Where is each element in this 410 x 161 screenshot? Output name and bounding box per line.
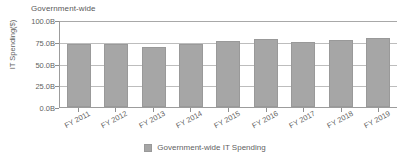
x-tick-label: FY 2016 — [250, 109, 279, 130]
chart-legend: Government-wide IT Spending — [0, 143, 410, 152]
x-tick-slot: FY 2019 — [360, 108, 398, 148]
x-tick-label: FY 2015 — [213, 109, 242, 130]
x-tick-slot: FY 2012 — [97, 108, 135, 148]
y-axis: IT Spending($) 100.0B 75.0B 50.0B 25.0B … — [0, 0, 55, 161]
x-tick-label: FY 2012 — [100, 109, 129, 130]
x-tick-slot: FY 2014 — [172, 108, 210, 148]
x-tick-slot: FY 2018 — [322, 108, 360, 148]
bar-slot — [322, 21, 359, 107]
bar[interactable] — [104, 44, 128, 107]
bar-slot — [172, 21, 209, 107]
bar-slot — [60, 21, 97, 107]
bar[interactable] — [329, 40, 353, 107]
y-axis-title: IT Spending($) — [8, 9, 17, 81]
bar-slot — [360, 21, 397, 107]
x-tick-mark — [153, 108, 154, 112]
x-tick-mark — [341, 108, 342, 112]
bar-slot — [135, 21, 172, 107]
x-tick-mark — [266, 108, 267, 112]
bar[interactable] — [291, 42, 315, 107]
x-tick-slot: FY 2011 — [59, 108, 97, 148]
x-tick-label: FY 2019 — [363, 109, 392, 130]
bar-slot — [247, 21, 284, 107]
x-tick-label: FY 2011 — [63, 109, 92, 130]
chart-container: Government-wide IT Spending($) 100.0B 75… — [0, 0, 410, 161]
y-tick-label-25: 25.0B — [35, 82, 55, 91]
bar[interactable] — [67, 44, 91, 107]
x-tick-mark — [115, 108, 116, 112]
bar[interactable] — [216, 41, 240, 107]
bar[interactable] — [366, 38, 390, 107]
y-tick-label-100: 100.0B — [31, 17, 55, 26]
x-tick-mark — [303, 108, 304, 112]
y-tick-label-50: 50.0B — [35, 60, 55, 69]
bar-slot — [210, 21, 247, 107]
x-tick-mark — [228, 108, 229, 112]
x-tick-slot: FY 2017 — [284, 108, 322, 148]
bar[interactable] — [254, 39, 278, 107]
x-tick-slot: FY 2016 — [247, 108, 285, 148]
x-tick-label: FY 2018 — [325, 109, 354, 130]
legend-swatch-icon — [144, 144, 152, 152]
x-tick-label: FY 2017 — [288, 109, 317, 130]
bar-slot — [285, 21, 322, 107]
x-axis: FY 2011FY 2012FY 2013FY 2014FY 2015FY 20… — [59, 108, 397, 148]
x-tick-mark — [78, 108, 79, 112]
x-tick-mark — [378, 108, 379, 112]
x-tick-slot: FY 2013 — [134, 108, 172, 148]
x-tick-label: FY 2014 — [175, 109, 204, 130]
bar[interactable] — [179, 44, 203, 107]
y-tick-label-75: 75.0B — [35, 38, 55, 47]
plot-area — [59, 21, 397, 108]
x-tick-label: FY 2013 — [137, 109, 166, 130]
bar-series — [60, 21, 397, 107]
x-tick-slot: FY 2015 — [209, 108, 247, 148]
y-tick-label-0: 0.0B — [40, 104, 55, 113]
bar[interactable] — [142, 47, 166, 107]
x-tick-mark — [190, 108, 191, 112]
bar-slot — [97, 21, 134, 107]
legend-label: Government-wide IT Spending — [157, 143, 265, 152]
